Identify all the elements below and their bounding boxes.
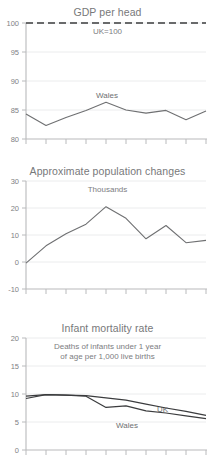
ytick-100: 100 [6,19,19,28]
gridlines-mortality [26,338,206,422]
ytick-90: 90 [11,77,19,86]
ytick-5: 5 [15,418,19,427]
ytick-0: 0 [15,446,19,455]
series-line-wales [26,102,206,125]
chart-panel-gdp-per-head: GDP per head UK=100 Wales [0,0,215,156]
ytick-20: 20 [11,334,19,343]
gridlines-population [26,181,206,262]
ytick-10: 10 [11,390,19,399]
ytick-neg-10: -10 [8,285,19,294]
ytick-95: 95 [11,48,19,57]
plot-population-changes: 30 20 10 0 -10 [0,156,215,313]
xticks-mortality [26,450,206,455]
series-line-wales-mortality [26,395,206,419]
xticks-population [26,289,206,294]
gridlines-gdp [26,23,206,110]
chart-panel-infant-mortality: Infant mortality rate Deaths of infants … [0,312,215,469]
ytick-0: 0 [15,258,19,267]
chart-panel-population-changes: Approximate population changes Thousands [0,156,215,312]
ytick-15: 15 [11,362,19,371]
ytick-20: 20 [11,204,19,213]
ytick-30: 30 [11,177,19,186]
plot-infant-mortality: 20 15 10 5 0 [0,312,215,469]
ytick-80: 80 [11,135,19,144]
ytick-10: 10 [11,231,19,240]
chart-stack: GDP per head UK=100 Wales [0,0,215,469]
plot-gdp-per-head: 100 95 90 85 80 [0,0,215,157]
xticks-gdp [26,139,206,144]
series-line-uk [26,395,206,416]
ytick-85: 85 [11,106,19,115]
